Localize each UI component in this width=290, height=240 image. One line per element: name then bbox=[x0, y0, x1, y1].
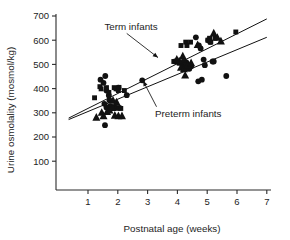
axis-ticks bbox=[52, 16, 267, 194]
data-point-circle bbox=[102, 73, 108, 79]
data-point-square bbox=[118, 106, 123, 111]
x-tick-label: 2 bbox=[115, 196, 120, 207]
y-tick-label: 600 bbox=[33, 35, 49, 46]
data-point-square bbox=[122, 88, 127, 93]
y-tick-label: 200 bbox=[33, 131, 49, 142]
y-tick-label: 300 bbox=[33, 107, 49, 118]
annotation-leader-line bbox=[127, 33, 158, 57]
data-point-triangle bbox=[179, 52, 187, 60]
annotation-label: Term infants bbox=[104, 21, 157, 32]
data-point-square bbox=[106, 90, 111, 95]
y-tick-label: 700 bbox=[33, 10, 49, 21]
x-axis-title: Postnatal age (weeks) bbox=[124, 223, 221, 234]
data-point-circle bbox=[211, 59, 217, 65]
data-point-square bbox=[179, 43, 184, 48]
data-point-square bbox=[99, 86, 104, 91]
data-point-circle bbox=[195, 78, 201, 84]
data-point-square bbox=[92, 95, 97, 100]
y-tick-label: 100 bbox=[33, 156, 49, 167]
data-point-circle bbox=[202, 62, 208, 68]
data-point-square bbox=[233, 30, 238, 35]
data-point-circle bbox=[102, 122, 108, 128]
scatter-plot: 1002003004005006007001234567 Term infant… bbox=[0, 0, 290, 240]
axes bbox=[56, 14, 271, 190]
x-tick-label: 6 bbox=[234, 196, 239, 207]
x-tick-label: 4 bbox=[175, 196, 180, 207]
data-point-circle bbox=[193, 34, 199, 40]
data-point-square bbox=[104, 85, 109, 90]
y-axis-title: Urine osmolality (mosmol/kg) bbox=[5, 47, 16, 173]
x-tick-label: 1 bbox=[85, 196, 90, 207]
y-tick-label: 400 bbox=[33, 83, 49, 94]
annotation-label: Preterm infants bbox=[155, 108, 222, 119]
x-tick-label: 5 bbox=[205, 196, 210, 207]
x-tick-label: 7 bbox=[264, 196, 269, 207]
data-point-circle bbox=[223, 73, 229, 79]
chart-figure: 1002003004005006007001234567 Term infant… bbox=[0, 0, 290, 240]
data-point-square bbox=[188, 40, 193, 45]
data-point-circle bbox=[124, 92, 130, 98]
x-tick-label: 3 bbox=[145, 196, 150, 207]
annotation-arrowhead bbox=[153, 53, 158, 58]
axis-tick-labels: 1002003004005006007001234567 bbox=[33, 10, 269, 207]
data-point-square bbox=[208, 40, 213, 45]
data-point-circle bbox=[201, 57, 207, 63]
data-point-square bbox=[117, 85, 122, 90]
y-tick-label: 500 bbox=[33, 59, 49, 70]
